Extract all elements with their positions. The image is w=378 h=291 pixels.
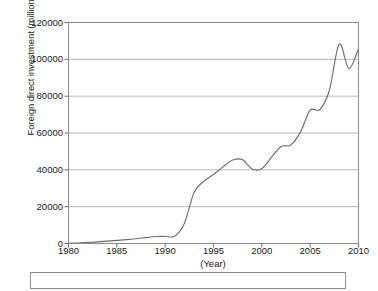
x-tick-label: 1980 (49, 246, 89, 256)
x-tick-label: 2005 (290, 246, 330, 256)
x-tick-label: 1985 (97, 246, 137, 256)
x-tick-label: 2010 (339, 246, 378, 256)
y-tick-label: 20000 (37, 202, 63, 212)
data-line (69, 44, 359, 244)
y-tick-label: 60000 (37, 128, 63, 138)
y-tick-label: 100000 (31, 54, 63, 64)
x-tick-label: 2000 (242, 246, 282, 256)
x-axis-label: (Year) (68, 258, 358, 269)
x-tick-label: 1995 (194, 246, 234, 256)
y-tick-label: 40000 (37, 165, 63, 175)
figure: Foreign direct investment (million US$) … (0, 0, 378, 291)
y-tick-marks (65, 23, 69, 244)
y-tick-label: 80000 (37, 91, 63, 101)
y-tick-label: 120000 (31, 18, 63, 28)
chart-plot: Foreign direct investment (million US$) … (0, 0, 378, 266)
x-tick-label: 1990 (145, 246, 185, 256)
data-series-group (69, 44, 359, 244)
caption-box (30, 272, 346, 289)
gridlines (69, 23, 359, 207)
